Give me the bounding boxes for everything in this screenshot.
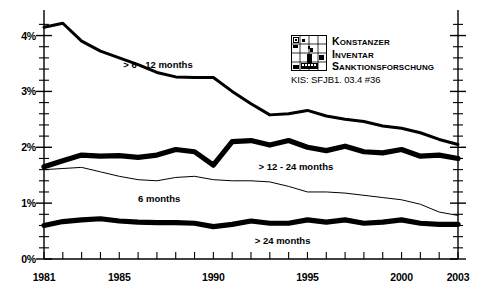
- logo-word-konstanzer: Konstanzer: [332, 36, 434, 47]
- x-axis-tick-label: 1985: [99, 271, 139, 283]
- series-line-1: [44, 141, 458, 167]
- series-line-2: [44, 167, 458, 215]
- x-axis-tick-label: 1990: [193, 271, 233, 283]
- y-axis-tick-label: 2%: [2, 141, 36, 153]
- logo-word-sanktionsforschung: Sanktionsforschung: [332, 61, 434, 72]
- kis-grid-logo: [291, 35, 327, 71]
- x-axis-tick-label: 2003: [438, 271, 478, 283]
- y-axis-tick-label: 3%: [2, 85, 36, 97]
- series-label-0: > 6 - 12 months: [123, 59, 192, 70]
- kis-logo-block: KonstanzerInventarSanktionsforschungKIS:…: [291, 35, 451, 85]
- logo-code-text: KIS: SFJB1. 03.4 #36: [291, 74, 451, 85]
- logo-word-inventar: Inventar: [332, 49, 434, 60]
- x-axis-tick-label: 1981: [24, 271, 64, 283]
- series-label-1: > 12 - 24 months: [259, 161, 334, 172]
- x-axis-tick-label: 2000: [382, 271, 422, 283]
- series-line-3: [44, 219, 458, 227]
- y-axis-tick-label: 1%: [2, 197, 36, 209]
- series-label-2: 6 months: [138, 193, 180, 204]
- y-axis-tick-label: 4%: [2, 30, 36, 42]
- y-axis-tick-label: 0%: [2, 253, 36, 265]
- x-axis-tick-label: 1995: [287, 271, 327, 283]
- chart-figure: 0%1%2%3%4%198119851990199520002003> 6 - …: [0, 0, 487, 300]
- series-label-3: > 24 months: [255, 235, 311, 246]
